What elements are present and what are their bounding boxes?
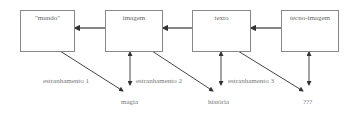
outcome-unknown: ??? [303, 98, 312, 106]
box-mundo: "mundo" [20, 10, 75, 52]
arrow-texto-to-unknown [238, 51, 303, 91]
edge-label-estranhamento-1: estranhamento 1 [43, 77, 89, 85]
outcome-magia: magia [121, 98, 138, 106]
edge-label-estranhamento-3: estranhamento 3 [228, 77, 274, 85]
arrow-imagem-to-historia [152, 51, 213, 91]
box-imagem-label: imagem [106, 14, 162, 22]
box-texto: texto [192, 10, 251, 52]
box-tecno-imagem: tecno-imagem [281, 10, 339, 52]
edge-label-estranhamento-2: estranhamento 2 [136, 77, 182, 85]
outcome-historia: história [208, 98, 229, 106]
arrow-mundo-to-magia [60, 51, 123, 91]
box-texto-label: texto [193, 14, 250, 22]
box-imagem: imagem [105, 10, 163, 52]
box-mundo-label: "mundo" [21, 14, 74, 22]
box-tecno-imagem-label: tecno-imagem [282, 14, 338, 22]
